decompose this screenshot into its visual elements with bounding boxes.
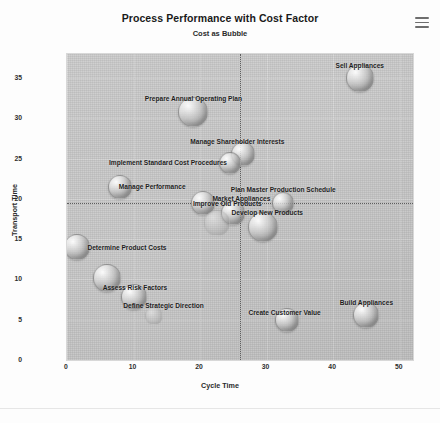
chart-subtitle: Cost as Bubble bbox=[0, 29, 440, 38]
plot-area: Sell AppliancesPrepare Annual Operating … bbox=[66, 53, 414, 361]
y-axis-tick: 0 bbox=[0, 356, 22, 363]
bubble-label: Prepare Annual Operating Plan bbox=[145, 94, 242, 101]
x-axis-tick: 10 bbox=[129, 363, 137, 370]
y-axis-title: Transport Time bbox=[10, 184, 19, 236]
bubble-label: Manage Performance bbox=[119, 182, 186, 189]
x-gridline bbox=[134, 54, 135, 360]
bubble-label: Implement Standard Cost Procedures bbox=[109, 158, 227, 165]
menu-bar-2 bbox=[415, 22, 429, 24]
x-gridline bbox=[400, 54, 401, 360]
x-gridline bbox=[333, 54, 334, 360]
bubble-label: Manage Shareholder Interests bbox=[190, 137, 284, 144]
y-axis-tick: 35 bbox=[0, 74, 22, 81]
x-axis-tick: 20 bbox=[195, 363, 203, 370]
bubble-label: Plan Master Production Schedule bbox=[231, 185, 336, 192]
bubble-point[interactable] bbox=[353, 302, 379, 328]
x-axis-tick: 0 bbox=[64, 363, 68, 370]
bubble-label: Sell Appliances bbox=[336, 62, 385, 69]
bubble-label: Improve Old Products bbox=[193, 199, 262, 206]
y-axis-tick: 5 bbox=[0, 315, 22, 322]
bubble-point[interactable] bbox=[178, 97, 208, 127]
y-axis-tick: 25 bbox=[0, 154, 22, 161]
bubble-point[interactable] bbox=[248, 212, 278, 242]
bubble-label: Define Strategic Direction bbox=[123, 302, 204, 309]
bubble-point[interactable] bbox=[145, 307, 163, 325]
bubble-label: Assess Risk Factors bbox=[103, 283, 168, 290]
bubble-label: Determine Product Costs bbox=[87, 244, 166, 251]
chart-title: Process Performance with Cost Factor bbox=[0, 12, 440, 24]
y-gridline bbox=[67, 360, 413, 361]
footer-divider bbox=[0, 408, 440, 409]
bubble-point[interactable] bbox=[204, 210, 230, 236]
bubble-point[interactable] bbox=[66, 234, 90, 260]
chart-page: Process Performance with Cost Factor Cos… bbox=[0, 0, 440, 423]
bubble-label: Create Customer Value bbox=[248, 308, 320, 315]
y-axis-tick: 30 bbox=[0, 114, 22, 121]
x-axis-title: Cycle Time bbox=[0, 381, 440, 390]
bubble-label: Build Appliances bbox=[340, 298, 393, 305]
x-axis-tick: 30 bbox=[262, 363, 270, 370]
y-axis-tick: 10 bbox=[0, 275, 22, 282]
menu-bar-1 bbox=[415, 17, 429, 19]
x-axis-tick: 40 bbox=[328, 363, 336, 370]
x-axis-tick: 50 bbox=[395, 363, 403, 370]
bubble-label: Develop New Products bbox=[232, 209, 303, 216]
menu-bar-3 bbox=[415, 26, 429, 28]
hamburger-menu-icon[interactable] bbox=[415, 17, 429, 28]
x-gridline bbox=[67, 54, 68, 360]
